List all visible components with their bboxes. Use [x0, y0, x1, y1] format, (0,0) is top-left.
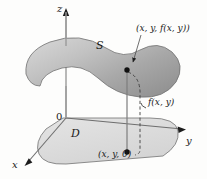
surface-diagram-figure: z y x S D 0 (x, y, f(x, y)) (x, y, 0) f(… — [0, 0, 207, 179]
surface-point-label: (x, y, f(x, y)) — [136, 24, 190, 33]
surface-label-s: S — [96, 40, 104, 51]
origin-label: 0 — [56, 112, 62, 122]
base-point-label: (x, y, 0) — [98, 150, 131, 159]
x-axis-label: x — [12, 160, 18, 170]
z-axis-label: z — [57, 4, 62, 14]
y-axis-label: y — [186, 136, 192, 146]
height-value-label: f(x, y) — [148, 98, 174, 107]
domain-label-d: D — [71, 128, 80, 139]
surface-point-dot — [124, 67, 129, 72]
